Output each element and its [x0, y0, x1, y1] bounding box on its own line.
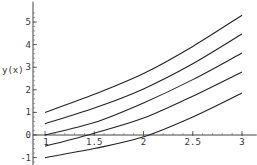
x-tick-label: 1.5: [86, 137, 102, 147]
y-tick-label: 2: [26, 85, 31, 95]
x-tick-label: 2.5: [185, 137, 201, 147]
y-axis-label: y(x): [2, 65, 24, 75]
series-line-3: [45, 53, 242, 135]
curves: [45, 15, 242, 157]
chart: -101234511.522.53 y(x): [0, 0, 257, 165]
x-tick-label: 3: [239, 137, 244, 147]
y-tick-label: 5: [26, 17, 31, 27]
y-tick-label: -1: [20, 153, 31, 163]
y-tick-label: 3: [26, 62, 31, 72]
y-tick-label: 1: [26, 107, 31, 117]
y-tick-label: 0: [26, 130, 31, 140]
series-line-1: [45, 15, 242, 112]
x-tick-label: 2: [141, 137, 146, 147]
series-line-2: [45, 34, 242, 124]
y-tick-label: 4: [26, 40, 31, 50]
